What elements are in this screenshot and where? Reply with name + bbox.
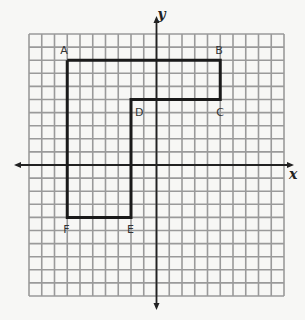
y-axis-arrow-down-icon [154,303,160,310]
x-axis-label: x [288,166,298,182]
vertex-label-d: D [135,106,143,119]
vertex-label-c: C [216,106,224,119]
vertex-label-f: F [63,223,69,236]
y-axis-label: y [157,6,167,22]
vertex-label-e: E [127,223,134,236]
vertex-label-a: A [60,44,68,57]
x-axis-arrow-left-icon [14,162,21,168]
vertex-label-b: B [215,44,223,57]
coordinate-plane: ABCDEF x y [0,0,305,320]
